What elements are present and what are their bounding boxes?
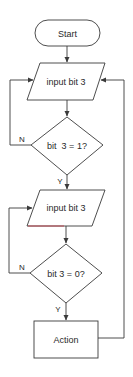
edge-action-to-input1-loop: [98, 80, 124, 338]
input2-node: input bit 3: [27, 190, 105, 226]
input2-label: input bit 3: [46, 203, 85, 213]
start-node: Start: [35, 20, 100, 46]
input1-node: input bit 3: [27, 63, 105, 100]
start-label: Start: [58, 29, 78, 39]
flowchart-svg: Start input bit 3 bit 3 = 1? N Y input b…: [0, 0, 133, 377]
decision2-yes-label: Y: [55, 305, 61, 314]
decision2-label: bit 3 = 0?: [47, 269, 84, 279]
input1-label: input bit 3: [46, 77, 85, 87]
decision1-label: bit 3 = 1?: [47, 141, 87, 151]
action-label: Action: [53, 335, 78, 345]
decision2-node: bit 3 = 0?: [30, 244, 102, 303]
flowchart-canvas: Start input bit 3 bit 3 = 1? N Y input b…: [0, 0, 133, 377]
decision1-no-label: N: [19, 135, 25, 144]
decision1-node: bit 3 = 1?: [31, 117, 103, 175]
decision1-yes-label: Y: [57, 177, 63, 186]
action-node: Action: [34, 321, 98, 358]
decision2-no-label: N: [19, 263, 25, 272]
